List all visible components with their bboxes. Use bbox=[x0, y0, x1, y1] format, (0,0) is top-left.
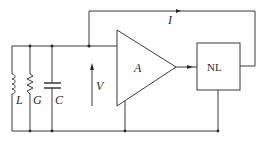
voltage-arrow-icon bbox=[90, 63, 94, 106]
label-V: V bbox=[96, 79, 105, 93]
capacitor bbox=[44, 46, 61, 131]
label-NL: NL bbox=[207, 61, 222, 73]
label-C: C bbox=[55, 93, 64, 107]
amp-to-nl-wire bbox=[176, 65, 197, 69]
label-I: I bbox=[167, 13, 173, 27]
signal-arrow-icon bbox=[187, 65, 193, 69]
feedback-wire bbox=[89, 9, 255, 66]
nonlinear-block bbox=[197, 43, 240, 131]
current-arrow-icon bbox=[176, 9, 181, 13]
conductance bbox=[27, 46, 33, 131]
label-G: G bbox=[33, 93, 42, 107]
label-A: A bbox=[133, 61, 142, 75]
label-L: L bbox=[15, 93, 23, 107]
amplifier bbox=[117, 30, 176, 131]
inductor bbox=[12, 46, 15, 131]
circuit-diagram: L G C V A NL I bbox=[0, 0, 263, 142]
